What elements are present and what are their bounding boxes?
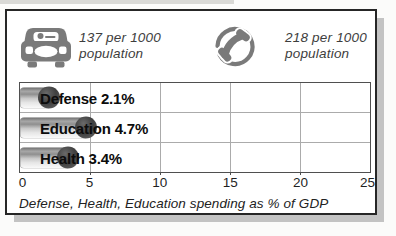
- page-scan-artifact: [0, 0, 234, 4]
- education-bar-label: Education 4.7%: [40, 119, 148, 136]
- phone-stat-text: 218 per 1000 population: [285, 30, 367, 61]
- phone-stat-label: population: [285, 46, 367, 62]
- health-bar-label: Health 3.4%: [40, 149, 122, 166]
- x-tick-label-0: 0: [19, 175, 27, 190]
- x-tick-label-20: 20: [293, 175, 308, 190]
- phone-stat-value: 218 per 1000: [285, 30, 367, 46]
- x-tick-label-15: 15: [223, 175, 238, 190]
- car-icon: [19, 26, 73, 70]
- telephone-icon: [212, 23, 258, 69]
- x-tick-label-10: 10: [152, 175, 167, 190]
- figure-panel: 137 per 1000 population 218 per 1000 pop…: [5, 9, 377, 215]
- bar-row-defense: Defense 2.1%: [20, 83, 370, 113]
- bar-chart-plot: Defense 2.1% Education 4.7% Health 3.4%: [19, 82, 371, 173]
- chart-caption: Defense, Health, Education spending as %…: [19, 196, 328, 211]
- car-stat-label: population: [79, 46, 161, 62]
- bar-row-health: Health 3.4%: [20, 143, 370, 172]
- car-stat-text: 137 per 1000 population: [79, 30, 161, 61]
- x-tick-label-25: 25: [360, 175, 375, 190]
- x-axis: 0 5 10 15 20 25: [19, 175, 371, 191]
- defense-bar-label: Defense 2.1%: [40, 89, 134, 106]
- bar-row-education: Education 4.7%: [20, 113, 370, 143]
- x-tick-label-5: 5: [86, 175, 94, 190]
- car-stat-value: 137 per 1000: [79, 30, 161, 46]
